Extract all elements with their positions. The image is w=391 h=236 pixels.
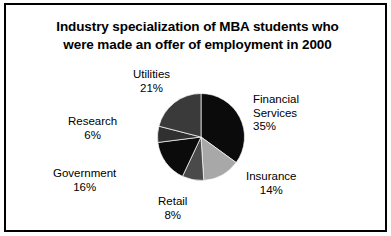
slice-value-retail: 8%: [158, 209, 187, 223]
slice-value-government: 16%: [53, 181, 116, 195]
slice-label-research-text: Research: [68, 115, 117, 129]
slice-label-retail-text: Retail: [158, 195, 187, 209]
chart-title-line-1: Industry specialization of MBA students …: [26, 18, 369, 36]
slice-value-insurance: 14%: [246, 184, 297, 198]
slice-value-research: 6%: [68, 129, 117, 143]
slice-label-government-text: Government: [53, 167, 116, 181]
slice-label-financial-services-line-1: Financial: [253, 93, 299, 107]
slice-label-financial-services-line-2: Services: [253, 107, 299, 121]
slice-label-utilities-text: Utilities: [133, 68, 170, 82]
slice-label-utilities: Utilities 21%: [133, 68, 170, 95]
chart-title-line-2: were made an offer of employment in 2000: [26, 36, 369, 54]
slice-label-insurance-text: Insurance: [246, 170, 297, 184]
slice-label-insurance: Insurance 14%: [246, 170, 297, 197]
slice-label-retail: Retail 8%: [158, 195, 187, 222]
pie-svg: [157, 93, 245, 181]
slice-label-government: Government 16%: [53, 167, 116, 194]
slice-label-financial-services: Financial Services 35%: [253, 93, 299, 134]
chart-title: Industry specialization of MBA students …: [26, 18, 369, 54]
figure-border: Industry specialization of MBA students …: [4, 3, 387, 232]
pie-chart-figure: Industry specialization of MBA students …: [0, 0, 391, 236]
pie-slice-group: [157, 94, 244, 181]
slice-value-financial-services: 35%: [253, 120, 299, 134]
slice-value-utilities: 21%: [133, 82, 170, 96]
pie-graphic: [157, 93, 245, 181]
slice-label-research: Research 6%: [68, 115, 117, 142]
